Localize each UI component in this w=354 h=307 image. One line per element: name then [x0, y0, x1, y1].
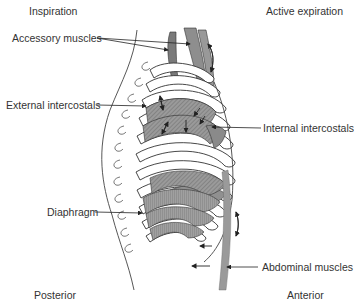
callout-external-intercostals: External intercostals: [6, 99, 101, 111]
callout-abdominal-muscles: Abdominal muscles: [262, 261, 353, 273]
external-intercostals: [143, 99, 220, 144]
callout-diaphragm: Diaphragm: [47, 206, 98, 218]
push-arrows: [192, 246, 212, 266]
callout-internal-intercostals: Internal intercostals: [263, 122, 354, 134]
label-inspiration: Inspiration: [29, 5, 77, 17]
label-posterior: Posterior: [34, 289, 76, 301]
callout-accessory-muscles: Accessory muscles: [12, 32, 102, 44]
label-active-expiration: Active expiration: [266, 5, 343, 17]
label-anterior: Anterior: [287, 289, 324, 301]
